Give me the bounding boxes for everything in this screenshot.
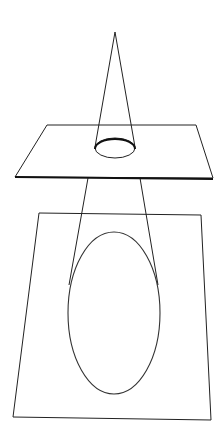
projection-line-left: [69, 178, 88, 285]
large-ellipse: [68, 232, 160, 394]
projection-line-right: [140, 178, 158, 285]
conic-section-diagram: [0, 0, 224, 436]
lower-plane: [13, 213, 211, 420]
